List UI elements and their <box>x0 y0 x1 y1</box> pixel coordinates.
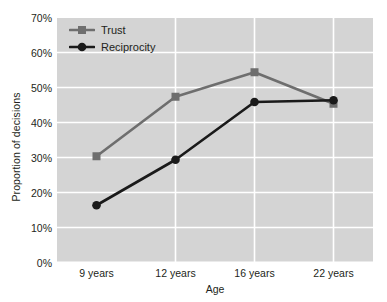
y-tick-label: 40% <box>2 118 52 129</box>
reciprocity-point-marker <box>329 96 338 105</box>
legend-label-trust: Trust <box>101 23 126 38</box>
reciprocity-point-marker <box>92 201 101 210</box>
x-tick-label: 12 years <box>155 268 195 279</box>
plot-area: Trust Reciprocity <box>57 18 373 263</box>
legend-item-trust: Trust <box>69 22 155 38</box>
trust-line <box>97 72 334 156</box>
reciprocity-point-marker <box>171 155 180 164</box>
x-tick-label: 16 years <box>234 268 274 279</box>
gridlines-vertical <box>176 18 334 263</box>
y-tick-label: 30% <box>2 153 52 164</box>
y-tick-label: 0% <box>2 258 52 269</box>
x-axis-title: Age <box>57 283 373 295</box>
legend-item-reciprocity: Reciprocity <box>69 39 155 55</box>
y-axis-tick-labels: 70% 60% 50% 40% 30% 20% 10% 0% <box>0 0 52 302</box>
reciprocity-point-marker <box>250 98 259 107</box>
trust-point-marker <box>251 68 259 76</box>
chart-legend: Trust Reciprocity <box>69 22 155 56</box>
y-tick-label: 50% <box>2 83 52 94</box>
y-tick-label: 20% <box>2 188 52 199</box>
reciprocity-line <box>97 100 334 205</box>
y-tick-label: 70% <box>2 13 52 24</box>
reciprocity-legend-swatch-icon <box>69 41 95 53</box>
trust-point-marker <box>172 93 180 101</box>
trust-legend-swatch-icon <box>69 24 95 36</box>
series-trust <box>93 68 338 160</box>
y-tick-label: 60% <box>2 48 52 59</box>
trust-point-marker <box>93 152 101 160</box>
chart-figure: Proportion of decisions 70% 60% 50% 40% … <box>0 0 387 302</box>
x-tick-label: 22 years <box>313 268 353 279</box>
legend-label-reciprocity: Reciprocity <box>101 40 155 55</box>
y-tick-label: 10% <box>2 223 52 234</box>
x-tick-label: 9 years <box>79 268 113 279</box>
